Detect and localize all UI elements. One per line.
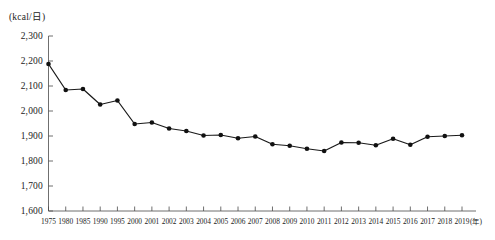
data-point [425, 134, 430, 139]
x-axis-tick-label: 1985 [76, 217, 91, 226]
y-axis-tick-label: 2,300 [21, 31, 43, 41]
y-axis-tick-label: 2,000 [21, 106, 43, 116]
data-point [46, 62, 51, 67]
data-point [115, 98, 120, 103]
data-point [167, 126, 172, 131]
y-axis-tick-label: 2,200 [21, 56, 43, 66]
chart-container: (kcal/日) 1,6001,7001,8001,9002,0002,1002… [0, 0, 495, 240]
data-point [201, 133, 206, 138]
x-axis-tick-label: 2003 [179, 217, 194, 226]
x-axis-tick-label: 2012 [334, 217, 349, 226]
data-point [322, 149, 327, 154]
x-axis-tick-label: 1995 [110, 217, 125, 226]
x-axis-tick-label: 1980 [58, 217, 73, 226]
x-axis-tick-label: 2000 [127, 217, 142, 226]
data-point-group [46, 62, 464, 154]
x-axis-tick-label: 2002 [162, 217, 177, 226]
data-point [305, 146, 310, 151]
x-axis-tick-label: 2011 [317, 217, 332, 226]
data-point [218, 133, 223, 138]
data-point [236, 136, 241, 141]
x-axis-tick-label: 2010 [300, 217, 315, 226]
y-axis-tick-label: 1,600 [21, 206, 43, 216]
data-point [287, 143, 292, 148]
x-axis-tick-label: 2016 [403, 217, 418, 226]
data-point [339, 140, 344, 145]
y-axis-tick-label: 1,900 [21, 131, 43, 141]
data-point [63, 88, 68, 93]
x-axis-tick-label: 2014 [368, 217, 383, 226]
x-axis-tick-label: 2006 [231, 217, 246, 226]
data-point [150, 120, 155, 125]
x-axis-tick-label: 2008 [265, 217, 280, 226]
x-axis-tick-label: 1990 [93, 217, 108, 226]
data-point [442, 134, 447, 139]
data-point [98, 102, 103, 107]
data-point [184, 129, 189, 134]
x-axis-tick-label: 1975 [41, 217, 56, 226]
y-axis-tick-label: 2,100 [21, 81, 43, 91]
data-point [132, 122, 137, 127]
x-axis-tick-label: 2015 [386, 217, 401, 226]
x-axis-tick-label: 2009 [282, 217, 297, 226]
data-point [391, 136, 396, 141]
data-point [253, 134, 258, 139]
data-point [270, 142, 275, 147]
x-axis-tick-label: 2018 [437, 217, 452, 226]
x-axis-unit-label: (年) [470, 217, 482, 226]
x-axis-tick-label: 2013 [351, 217, 366, 226]
x-axis-tick-label: 2005 [213, 217, 228, 226]
data-point [460, 133, 465, 138]
x-axis-tick-label: 2007 [248, 217, 263, 226]
x-axis-tick-label: 2017 [420, 217, 435, 226]
x-axis-tick-group: 1975198019851990199520002001200220032004… [41, 207, 470, 227]
x-axis-tick-label: 2004 [196, 217, 211, 226]
line-chart-plot: 1,6001,7001,8001,9002,0002,1002,2002,300… [0, 0, 495, 240]
x-axis-tick-label: 2001 [144, 217, 159, 226]
data-point [374, 143, 379, 148]
y-axis-tick-label: 1,700 [21, 181, 43, 191]
data-point [356, 140, 361, 145]
x-axis-tick-label: 2019 [455, 217, 470, 226]
y-axis-tick-label: 1,800 [21, 156, 43, 166]
data-point [408, 142, 413, 147]
data-point [81, 87, 86, 92]
